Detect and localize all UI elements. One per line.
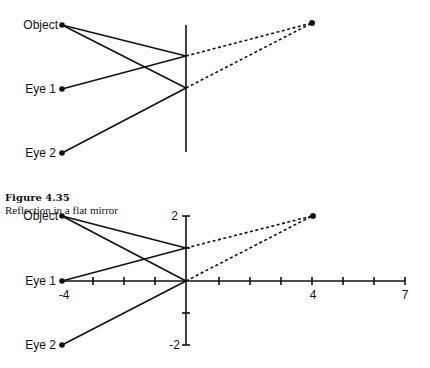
x-tick-label-left: -4: [59, 288, 70, 302]
bottom-diagram: [62, 216, 405, 345]
image-point-b: [310, 213, 316, 219]
ray-eye1-to-reflect1: [62, 56, 186, 89]
y-tick-label-top: 2: [171, 209, 178, 223]
virtual-ray-1: [186, 23, 312, 56]
image-point: [309, 20, 315, 26]
eye2-label: Eye 2: [25, 146, 56, 160]
virtual-ray-2: [186, 23, 312, 88]
top-diagram: [62, 23, 312, 153]
object-point: [59, 22, 65, 28]
object-label: Object: [23, 18, 58, 32]
eye1-label-b: Eye 1: [25, 274, 56, 288]
eye2-point-b: [59, 342, 65, 348]
figure-caption: Reflection in a flat mirror: [5, 204, 118, 216]
ray-object-to-reflect1: [62, 25, 186, 56]
eye2-point: [59, 150, 65, 156]
x-tick-label-right: 7: [402, 288, 409, 302]
y-tick-label-bottom: -2: [169, 338, 180, 352]
eye2-label-b: Eye 2: [25, 338, 56, 352]
ray-object-to-reflect2: [62, 25, 186, 88]
eye1-point-b: [59, 278, 65, 284]
ray-eye2-to-reflect2: [62, 88, 186, 153]
eye1-label: Eye 1: [25, 82, 56, 96]
figure-title: Figure 4.35: [5, 192, 70, 203]
eye1-point: [59, 86, 65, 92]
x-tick-label-mid: 4: [310, 288, 317, 302]
mirror-reflection-figure: Object Eye 1 Eye 2 Object Eye 1: [0, 0, 430, 368]
